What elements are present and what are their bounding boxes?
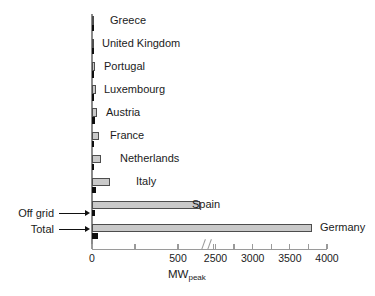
axis-tick [271,244,272,249]
bar-offgrid-luxembourg [92,94,94,100]
bar-total-united-kingdom [92,39,94,48]
x-tick-label-2: 2500 [196,253,236,264]
x-axis-title-sub: peak [188,273,205,282]
country-label-france: France [110,129,144,141]
country-label-austria: Austria [106,106,140,118]
total-arrow-head [85,226,90,232]
country-label-germany: Germany [320,221,365,233]
bar-offgrid-netherlands [92,164,94,170]
bar-total-netherlands [92,155,101,164]
bar-offgrid-italy [92,187,96,193]
axis-tick [289,244,290,249]
bar-offgrid-united-kingdom [92,48,94,54]
x-axis-title-main: MW [168,268,188,280]
total-arrow-line [59,229,86,230]
axis-break-marker [201,239,215,251]
bar-total-portugal [92,62,95,71]
total-label: Total [31,223,54,235]
off-grid-label: Off grid [18,207,54,219]
country-label-netherlands: Netherlands [120,152,179,164]
bar-total-austria [92,108,97,117]
off-grid-arrow-line [59,213,86,214]
x-tick-label-4: 3500 [270,253,310,264]
axis-tick [233,244,234,249]
axis-tick [215,244,216,249]
bar-total-france [92,132,99,141]
axis-tick [91,244,92,249]
axis-tick [308,244,309,249]
x-tick-label-3: 3000 [233,253,273,264]
axis-tick [134,244,135,249]
x-axis-title: MWpeak [168,268,206,280]
country-label-greece: Greece [110,14,146,26]
bar-total-greece [92,16,94,25]
x-tick-label-1: 500 [158,253,198,264]
bar-offgrid-portugal [92,71,94,77]
bar-offgrid-greece [92,25,94,31]
country-label-italy: Italy [136,175,156,187]
bar-total-spain [92,201,200,210]
x-tick-label-0: 0 [72,253,112,264]
bar-total-germany [92,224,312,233]
bar-offgrid-france [92,141,94,147]
bar-chart: 05002500300035004000MWpeakGreeceUnited K… [0,0,375,296]
bar-total-italy [92,178,110,187]
country-label-united-kingdom: United Kingdom [102,37,180,49]
bar-offgrid-spain [92,210,95,216]
bar-total-luxembourg [92,85,96,94]
axis-tick [252,244,253,249]
x-tick-label-5: 4000 [307,253,347,264]
bar-offgrid-austria [92,117,95,123]
axis-tick [177,244,178,249]
bar-offgrid-germany [92,233,98,239]
country-label-spain: Spain [192,198,220,210]
axis-tick [326,244,327,249]
country-label-luxembourg: Luxembourg [104,83,165,95]
off-grid-arrow-head [85,210,90,216]
country-label-portugal: Portugal [104,60,145,72]
